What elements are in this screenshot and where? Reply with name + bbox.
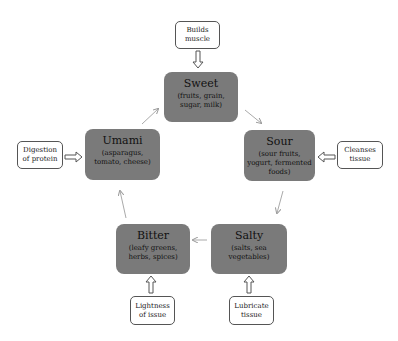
taste-box-umami: Umami (asparagus, tomato, cheese) (85, 129, 160, 180)
taste-title: Bitter (116, 229, 190, 242)
taste-box-sweet: Sweet (fruits, grain, sugar, milk) (164, 72, 238, 122)
taste-examples: (fruits, grain, sugar, milk) (164, 92, 238, 110)
effect-box-builds-muscle: Builds muscle (175, 21, 220, 49)
taste-examples: (asparagus, tomato, cheese) (85, 149, 160, 167)
taste-title: Umami (85, 134, 160, 147)
connector-arrows (0, 0, 398, 341)
effect-box-lightness-of-issue: Lightness of issue (130, 296, 175, 325)
effect-box-lubricate-tissue: Lubricate tissue (229, 296, 274, 325)
effect-box-cleanses-tissue: Cleanses tissue (337, 141, 383, 169)
taste-examples: (salts, sea vegetables) (211, 244, 287, 262)
taste-box-sour: Sour (sour fruits, yogurt, fermented foo… (244, 130, 315, 181)
taste-examples: (sour fruits, yogurt, fermented foods) (244, 150, 315, 177)
taste-title: Salty (211, 229, 287, 242)
effect-box-digestion-of-protein: Digestion of protein (17, 141, 63, 169)
taste-title: Sweet (164, 77, 238, 90)
taste-box-bitter: Bitter (leafy greens, herbs, spices) (116, 224, 190, 274)
taste-title: Sour (244, 135, 315, 148)
taste-box-salty: Salty (salts, sea vegetables) (211, 224, 287, 274)
taste-examples: (leafy greens, herbs, spices) (116, 244, 190, 262)
